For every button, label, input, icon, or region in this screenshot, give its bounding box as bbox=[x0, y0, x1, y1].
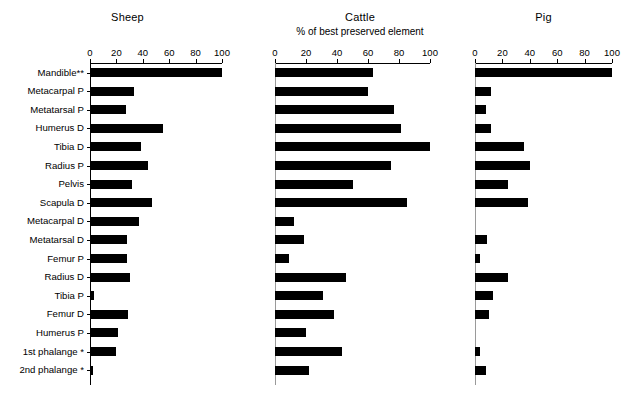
chart-panel-cattle: Cattle % of best preserved element 02040… bbox=[255, 0, 465, 402]
bar bbox=[275, 161, 391, 170]
bar bbox=[275, 310, 334, 319]
bar bbox=[275, 142, 430, 151]
bar bbox=[475, 124, 491, 133]
plot-area-cattle bbox=[255, 0, 465, 402]
bar bbox=[275, 87, 368, 96]
figure-root: Mandible**Metacarpal PMetatarsal PHumeru… bbox=[0, 0, 637, 402]
bar bbox=[90, 366, 93, 375]
bar bbox=[475, 310, 489, 319]
bar bbox=[90, 273, 130, 282]
bar bbox=[475, 347, 480, 356]
bar bbox=[475, 105, 486, 114]
bar bbox=[90, 180, 132, 189]
bar bbox=[275, 105, 394, 114]
bar bbox=[275, 180, 353, 189]
bar bbox=[275, 235, 304, 244]
bar bbox=[90, 254, 127, 263]
bar bbox=[475, 273, 508, 282]
bar bbox=[475, 161, 530, 170]
bar bbox=[90, 235, 127, 244]
bar bbox=[475, 180, 508, 189]
bar bbox=[90, 142, 141, 151]
bar bbox=[275, 124, 401, 133]
bar bbox=[475, 198, 528, 207]
bar bbox=[90, 87, 134, 96]
bar bbox=[275, 68, 373, 77]
bar bbox=[475, 235, 487, 244]
bar bbox=[90, 310, 128, 319]
bar bbox=[475, 291, 493, 300]
bar bbox=[475, 87, 491, 96]
bar bbox=[275, 328, 306, 337]
bar bbox=[90, 198, 152, 207]
bar bbox=[475, 142, 524, 151]
bar bbox=[475, 68, 612, 77]
chart-panel-pig: Pig 020406080100 bbox=[450, 0, 637, 402]
bar bbox=[275, 198, 407, 207]
chart-panel-sheep: Sheep 020406080100 bbox=[0, 0, 255, 402]
bar bbox=[90, 68, 222, 77]
bar bbox=[90, 328, 118, 337]
plot-area-pig bbox=[450, 0, 637, 402]
bar bbox=[475, 366, 486, 375]
bar bbox=[90, 291, 94, 300]
bar bbox=[475, 254, 480, 263]
bar bbox=[275, 217, 294, 226]
bar bbox=[275, 366, 309, 375]
bar bbox=[90, 105, 126, 114]
bar bbox=[275, 254, 289, 263]
bar bbox=[275, 347, 342, 356]
bar bbox=[90, 217, 139, 226]
plot-area-sheep bbox=[0, 0, 255, 402]
bar bbox=[90, 124, 163, 133]
bar bbox=[275, 273, 346, 282]
bar bbox=[90, 161, 148, 170]
bar bbox=[275, 291, 323, 300]
bar bbox=[90, 347, 116, 356]
